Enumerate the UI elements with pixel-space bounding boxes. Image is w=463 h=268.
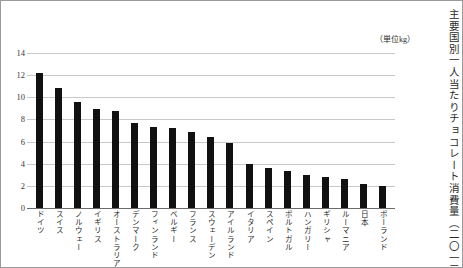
bar: [265, 168, 272, 208]
bar-series: [27, 53, 395, 208]
bar-slot: [182, 53, 201, 208]
y-axis-tick-label: 12: [5, 70, 25, 80]
bar-slot: [297, 53, 316, 208]
x-axis-category-label: フィンランド: [150, 210, 158, 266]
x-axis-category-label: ポーランド: [378, 210, 386, 266]
bar: [341, 179, 348, 208]
x-label-slot: アイルランド: [220, 210, 239, 266]
bar-slot: [201, 53, 220, 208]
x-axis-category-label: ルーマニア: [340, 210, 348, 266]
x-axis-category-label: ベルギー: [169, 210, 177, 266]
x-label-slot: ルーマニア: [335, 210, 354, 266]
bar-slot: [240, 53, 259, 208]
bar: [188, 132, 195, 208]
y-axis-tick-label: 4: [5, 159, 25, 169]
x-label-slot: ノルウェー: [68, 210, 87, 266]
x-label-slot: スイス: [49, 210, 68, 266]
bar-slot: [316, 53, 335, 208]
bar-slot: [125, 53, 144, 208]
x-axis-category-label: ハンガリー: [302, 210, 310, 266]
unit-label: （単位kg）: [375, 33, 415, 44]
bar-slot: [49, 53, 68, 208]
x-label-slot: フランス: [182, 210, 201, 266]
bar-slot: [335, 53, 354, 208]
x-axis-category-label: フランス: [188, 210, 196, 266]
y-axis-tick-label: 0: [5, 203, 25, 213]
x-label-slot: ポルトガル: [278, 210, 297, 266]
bar: [150, 127, 157, 208]
chart-figure: 主要国別一人当たりチョコレート消費量（二〇一三年） （単位kg） 0246810…: [0, 0, 463, 268]
bar-slot: [278, 53, 297, 208]
x-label-slot: イギリス: [87, 210, 106, 266]
bar-slot: [220, 53, 239, 208]
bar: [36, 73, 43, 208]
bar-slot: [144, 53, 163, 208]
bar: [207, 137, 214, 208]
x-label-slot: デンマーク: [125, 210, 144, 266]
bar: [303, 175, 310, 208]
x-axis-category-label: オーストラリア: [112, 210, 120, 266]
bar-slot: [30, 53, 49, 208]
y-axis-tick-labels: 02468101214: [5, 53, 25, 208]
chart-title-vertical: 主要国別一人当たりチョコレート消費量（二〇一三年）: [404, 9, 458, 261]
bar: [322, 177, 329, 208]
x-label-slot: 日本: [354, 210, 373, 266]
bar: [226, 143, 233, 208]
x-axis-category-label: ドイツ: [36, 210, 44, 266]
bar: [379, 186, 386, 208]
x-label-slot: ギリシャ: [316, 210, 335, 266]
x-axis-category-label: デンマーク: [131, 210, 139, 266]
x-axis-category-label: 日本: [359, 210, 367, 266]
bar: [131, 123, 138, 208]
x-axis-category-label: ギリシャ: [321, 210, 329, 266]
x-axis-category-label: イタリア: [245, 210, 253, 266]
bar: [360, 184, 367, 208]
bar-slot: [106, 53, 125, 208]
bar-slot: [68, 53, 87, 208]
gridline: [27, 208, 395, 209]
bar-slot: [163, 53, 182, 208]
x-label-slot: ベルギー: [163, 210, 182, 266]
x-label-slot: スウェーデン: [201, 210, 220, 266]
bar: [246, 164, 253, 208]
bar: [284, 171, 291, 208]
x-axis-category-label: ノルウェー: [74, 210, 82, 266]
x-axis-category-label: スウェーデン: [207, 210, 215, 266]
y-axis-tick-label: 2: [5, 181, 25, 191]
bar-slot: [87, 53, 106, 208]
x-label-slot: スペイン: [259, 210, 278, 266]
bar: [55, 88, 62, 208]
x-label-slot: オーストラリア: [106, 210, 125, 266]
x-label-slot: ハンガリー: [297, 210, 316, 266]
x-axis-category-label: ポルトガル: [283, 210, 291, 266]
x-axis-category-labels: ドイツスイスノルウェーイギリスオーストラリアデンマークフィンランドベルギーフラン…: [27, 210, 395, 266]
y-axis-tick-label: 14: [5, 48, 25, 58]
y-axis-tick-label: 8: [5, 114, 25, 124]
x-axis-category-label: スイス: [55, 210, 63, 266]
y-axis-tick-label: 10: [5, 92, 25, 102]
plot-area: [27, 53, 395, 208]
x-axis-category-label: スペイン: [264, 210, 272, 266]
x-label-slot: フィンランド: [144, 210, 163, 266]
x-axis-category-label: アイルランド: [226, 210, 234, 266]
bar: [93, 109, 100, 208]
bar-slot: [373, 53, 392, 208]
bar-slot: [354, 53, 373, 208]
x-label-slot: ポーランド: [373, 210, 392, 266]
bar: [74, 102, 81, 208]
y-axis-tick-label: 6: [5, 137, 25, 147]
bar: [112, 111, 119, 208]
x-axis-category-label: イギリス: [93, 210, 101, 266]
bar-slot: [259, 53, 278, 208]
x-label-slot: ドイツ: [30, 210, 49, 266]
bar: [169, 128, 176, 208]
x-label-slot: イタリア: [240, 210, 259, 266]
